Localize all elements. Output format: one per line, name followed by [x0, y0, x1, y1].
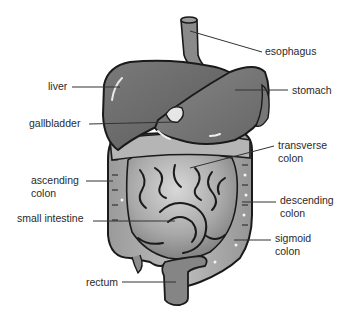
label-line: sigmoid [275, 232, 311, 245]
label-line: transverse [278, 139, 327, 152]
esophagus-leader-line [190, 31, 262, 52]
label-rectum: rectum [86, 276, 118, 289]
label-line: stomach [292, 84, 332, 97]
label-ascending-colon: ascendingcolon [31, 174, 79, 200]
label-transverse-colon: transversecolon [278, 139, 327, 165]
label-liver: liver [48, 80, 67, 93]
label-sigmoid-colon: sigmoidcolon [275, 232, 311, 258]
label-small-intestine: small intestine [17, 212, 84, 225]
label-stomach: stomach [292, 84, 332, 97]
label-gallbladder: gallbladder [29, 117, 80, 130]
label-line: small intestine [17, 212, 84, 225]
label-descending-colon: descendingcolon [280, 194, 334, 220]
label-line: esophagus [265, 45, 316, 58]
label-line: colon [280, 207, 334, 220]
digestive-system-diagram: esophagusliverstomachgallbladdertransver… [0, 0, 354, 319]
label-esophagus: esophagus [265, 45, 316, 58]
label-line: liver [48, 80, 67, 93]
label-line: descending [280, 194, 334, 207]
label-line: rectum [86, 276, 118, 289]
label-line: colon [275, 245, 311, 258]
label-line: colon [278, 152, 327, 165]
label-line: ascending [31, 174, 79, 187]
label-line: gallbladder [29, 117, 80, 130]
label-line: colon [31, 187, 79, 200]
